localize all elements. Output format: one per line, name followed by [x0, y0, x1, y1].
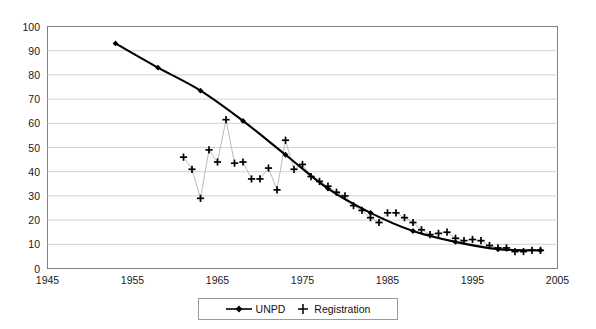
- x-axis-tick-label: 1945: [28, 275, 68, 286]
- x-axis-tick-label: 2005: [538, 275, 578, 286]
- y-axis-tick-label: 100: [14, 22, 40, 33]
- x-axis-tick-label: 1965: [198, 275, 238, 286]
- y-axis-tick-label: 70: [14, 94, 40, 105]
- y-axis-tick-label: 30: [14, 191, 40, 202]
- legend-label-unpd: UNPD: [256, 304, 286, 315]
- x-axis-tick-label: 1985: [368, 275, 408, 286]
- y-axis-tick-label: 20: [14, 215, 40, 226]
- legend-label-registration: Registration: [314, 304, 370, 315]
- legend-marker-diamond-line-icon: [226, 304, 252, 314]
- y-axis-tick-label: 10: [14, 239, 40, 250]
- y-axis-tick-label: 80: [14, 70, 40, 81]
- chart-legend: UNPD Registration: [198, 298, 398, 320]
- legend-marker-plus-icon: [296, 303, 310, 315]
- y-axis-tick-label: 60: [14, 118, 40, 129]
- y-axis-tick-label: 50: [14, 143, 40, 154]
- x-axis-tick-label: 1975: [283, 275, 323, 286]
- y-axis-tick-label: 90: [14, 46, 40, 57]
- x-axis-tick-label: 1995: [453, 275, 493, 286]
- legend-item-unpd: UNPD: [226, 304, 286, 315]
- y-axis-tick-label: 40: [14, 167, 40, 178]
- legend-item-registration: Registration: [296, 303, 370, 315]
- x-axis-tick-label: 1955: [113, 275, 153, 286]
- chart-container: 1009080706050403020100 19451955196519751…: [0, 0, 596, 329]
- y-axis-tick-label: 0: [14, 264, 40, 275]
